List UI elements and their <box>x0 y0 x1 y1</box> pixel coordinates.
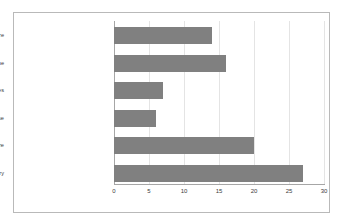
x-tick-label: 15 <box>209 188 229 194</box>
x-axis-line <box>114 184 325 185</box>
bar <box>114 110 156 127</box>
category-label: Chronic diseases <box>0 82 4 99</box>
gridline-25 <box>289 21 290 184</box>
bar-row <box>114 82 163 99</box>
category-label: Maternity and Child care <box>0 27 4 44</box>
category-label: dietry <box>0 165 4 182</box>
gridline-10 <box>184 21 185 184</box>
gridline-20 <box>254 21 255 184</box>
x-tick-label: 10 <box>174 188 194 194</box>
x-tick-label: 20 <box>244 188 264 194</box>
category-label: epidemic of infectious disease <box>0 110 4 127</box>
bar <box>114 27 212 44</box>
bar <box>114 137 254 154</box>
x-tick-label: 5 <box>139 188 159 194</box>
bar <box>114 82 163 99</box>
bar-row <box>114 55 226 72</box>
gridline-0 <box>114 21 115 184</box>
bar-row <box>114 137 254 154</box>
x-tick-label: 25 <box>279 188 299 194</box>
chart-frame: Maternity and Child careAlternative medi… <box>13 12 330 213</box>
category-label: Alternative medicine <box>0 55 4 72</box>
x-tick-label: 0 <box>104 188 124 194</box>
bar-row <box>114 27 212 44</box>
bar <box>114 165 303 182</box>
bar <box>114 55 226 72</box>
gridline-5 <box>149 21 150 184</box>
bar-row <box>114 110 156 127</box>
gridline-30 <box>324 21 325 184</box>
plot-area: Maternity and Child careAlternative medi… <box>114 21 324 184</box>
category-label: Diseases and cure <box>0 137 4 154</box>
bar-row <box>114 165 303 182</box>
gridline-15 <box>219 21 220 184</box>
x-tick-label: 30 <box>314 188 334 194</box>
